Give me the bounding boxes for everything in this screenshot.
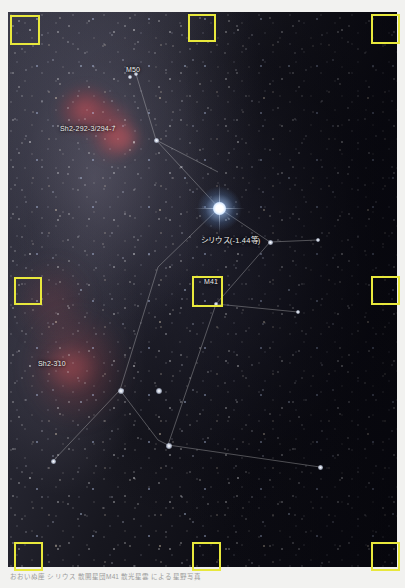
- anno-box-top-left[interactable]: [10, 15, 40, 45]
- star-furud: [51, 459, 56, 464]
- star-tau-cma: [318, 465, 323, 470]
- photo-frame: M50 Sh2-292-3/294-7 シリウス(-1.44等) M41 Sh2…: [0, 0, 405, 588]
- anno-box-bottom-center[interactable]: [192, 542, 221, 571]
- photo-caption: おおいぬ座 シリウス 散開星団M41 散光星雲 による星野写真: [10, 572, 400, 582]
- star-omicron-cma: [316, 238, 320, 242]
- star-sirius: [213, 202, 226, 215]
- star-adhara: [118, 388, 124, 394]
- anno-box-top-right[interactable]: [371, 14, 400, 44]
- anno-box-m41-center[interactable]: [192, 276, 223, 307]
- star-theta-cma: [134, 72, 138, 76]
- star-wezen: [156, 388, 162, 394]
- star-nu-cma: [296, 310, 300, 314]
- star-mirzam: [154, 138, 159, 143]
- sirius-core: [213, 202, 226, 215]
- star-muliphein: [268, 240, 273, 245]
- star-m50-cluster: [128, 75, 132, 79]
- anno-box-bottom-right[interactable]: [371, 542, 400, 571]
- anno-box-middle-right[interactable]: [371, 276, 400, 305]
- anno-box-bottom-left[interactable]: [14, 542, 43, 571]
- star-aludra: [166, 443, 172, 449]
- anno-box-middle-left[interactable]: [14, 277, 42, 305]
- anno-box-top-center[interactable]: [188, 14, 216, 42]
